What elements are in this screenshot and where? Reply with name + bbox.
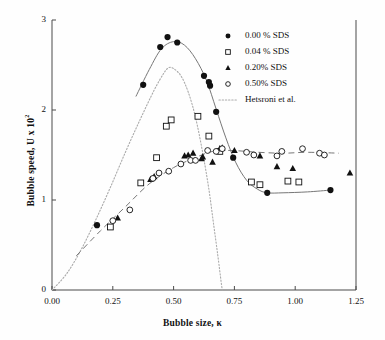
x-tick-label: 1.25 (336, 296, 376, 306)
y-tick-label: 2 (24, 104, 46, 114)
y-tick-label: 1 (24, 194, 46, 204)
tick-marks (52, 20, 356, 290)
hetsroni-model-curve (52, 67, 222, 290)
x-tick-label: 0.00 (32, 296, 72, 306)
y-axis-title: Bubble speed, U x 102 (24, 71, 35, 251)
x-tick-label: 0.75 (214, 296, 254, 306)
y-axis-exponent: 2 (24, 115, 30, 118)
x-tick-label: 0.25 (93, 296, 133, 306)
legend-entry-label: 0.00 % SDS (245, 30, 289, 40)
x-tick-label: 0.50 (154, 296, 194, 306)
legend-entry-label: 0.50% SDS (245, 78, 287, 88)
legend-entry-label: Hetsroni et al. (245, 94, 296, 104)
legend-markers (219, 34, 237, 100)
legend-entry-label: 0.04 % SDS (245, 46, 289, 56)
x-tick-label: 1.00 (275, 296, 315, 306)
legend-entry-label: 0.20% SDS (245, 62, 287, 72)
y-tick-label: 3 (24, 14, 46, 24)
x-axis-title: Bubble size, κ (0, 318, 385, 328)
chart-plot-area (0, 0, 385, 340)
bubble-speed-chart-figure: Bubble size, κ Bubble speed, U x 102 0.0… (0, 0, 385, 340)
axis-frame (52, 20, 356, 290)
y-tick-label: 0 (24, 284, 46, 294)
